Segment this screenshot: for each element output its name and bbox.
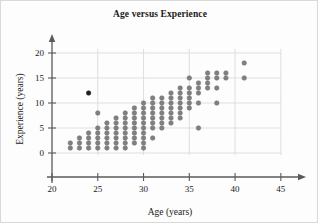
data-point	[114, 136, 119, 141]
data-point	[68, 141, 73, 146]
data-point	[196, 101, 201, 106]
data-point	[132, 136, 137, 141]
data-point	[105, 121, 110, 126]
data-point	[169, 106, 174, 111]
data-point	[95, 131, 100, 136]
data-point	[150, 101, 155, 106]
data-point	[123, 126, 128, 131]
data-point	[160, 111, 165, 116]
data-point	[178, 101, 183, 106]
data-point	[132, 106, 137, 111]
data-point	[141, 146, 146, 151]
data-point	[114, 141, 119, 146]
data-point	[105, 146, 110, 151]
data-point	[214, 76, 219, 81]
y-axis-tick-label: 15	[35, 73, 45, 83]
data-point	[95, 111, 100, 116]
data-point	[132, 141, 137, 146]
data-point	[178, 91, 183, 96]
axes	[47, 34, 306, 183]
data-point	[141, 111, 146, 116]
axis-ticks	[48, 53, 281, 181]
data-point	[141, 131, 146, 136]
data-point	[141, 121, 146, 126]
data-point	[123, 116, 128, 121]
data-point	[187, 101, 192, 106]
data-point	[123, 136, 128, 141]
data-point	[123, 146, 128, 151]
x-axis-tick-label: 35	[185, 184, 195, 194]
data-point	[105, 136, 110, 141]
data-point	[178, 106, 183, 111]
data-point	[178, 96, 183, 101]
data-point	[114, 146, 119, 151]
data-points-layer	[68, 61, 247, 151]
data-point	[150, 96, 155, 101]
data-point	[196, 126, 201, 131]
data-point	[95, 141, 100, 146]
data-point	[169, 121, 174, 126]
data-point	[205, 81, 210, 86]
y-axis-tick-label: 10	[35, 98, 45, 108]
data-point	[169, 116, 174, 121]
data-point	[68, 146, 73, 151]
data-point	[160, 96, 165, 101]
x-axis-tick-label: 30	[139, 184, 149, 194]
y-axis-tick-label: 20	[35, 48, 45, 58]
data-point	[123, 141, 128, 146]
data-point	[150, 126, 155, 131]
data-point	[169, 91, 174, 96]
data-point	[205, 71, 210, 76]
data-point	[141, 106, 146, 111]
data-point	[114, 121, 119, 126]
data-point	[150, 106, 155, 111]
data-point	[160, 121, 165, 126]
y-axis-tick-label: 5	[40, 123, 45, 133]
data-point	[187, 76, 192, 81]
x-axis-tick-label: 45	[276, 184, 286, 194]
data-point	[196, 81, 201, 86]
x-axis-label: Age (years)	[148, 207, 193, 218]
data-point	[214, 101, 219, 106]
data-point	[114, 116, 119, 121]
data-point	[132, 131, 137, 136]
data-point	[132, 121, 137, 126]
data-point	[178, 111, 183, 116]
data-point	[178, 86, 183, 91]
scatter-plot-figure: Age versus Experience 051015202025303540…	[0, 0, 318, 223]
data-point	[242, 61, 247, 66]
data-point	[160, 126, 165, 131]
data-point	[105, 126, 110, 131]
data-point	[160, 116, 165, 121]
data-point-outlier	[86, 91, 91, 96]
scatter-plot-canvas: 05101520202530354045 Age (years) Experie…	[1, 1, 318, 223]
data-point	[178, 116, 183, 121]
data-point	[77, 141, 82, 146]
data-point	[86, 141, 91, 146]
data-point	[169, 101, 174, 106]
data-point	[224, 76, 229, 81]
data-point	[141, 136, 146, 141]
data-point	[95, 136, 100, 141]
data-point	[150, 136, 155, 141]
data-point	[205, 76, 210, 81]
data-point	[105, 131, 110, 136]
data-point	[141, 101, 146, 106]
data-point	[160, 106, 165, 111]
data-point	[86, 131, 91, 136]
data-point	[214, 86, 219, 91]
data-point	[86, 146, 91, 151]
data-point	[114, 126, 119, 131]
x-axis-tick-label: 20	[48, 184, 58, 194]
data-point	[86, 136, 91, 141]
data-point	[77, 136, 82, 141]
data-point	[123, 111, 128, 116]
data-point	[169, 96, 174, 101]
data-point	[187, 106, 192, 111]
data-point	[187, 91, 192, 96]
data-point	[242, 76, 247, 81]
data-point	[95, 126, 100, 131]
data-point	[169, 111, 174, 116]
data-point	[150, 116, 155, 121]
x-axis-arrowhead	[298, 174, 306, 180]
